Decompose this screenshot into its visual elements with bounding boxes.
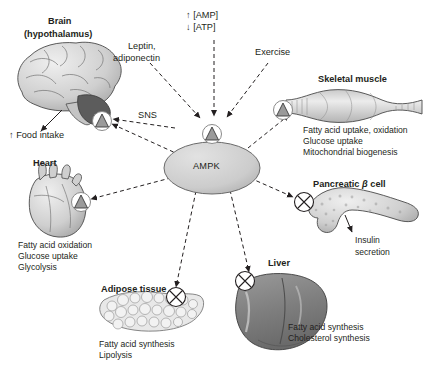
pancreas-title-prefix: Pancreatic (313, 179, 362, 189)
arrow-ampk-to-brain (112, 124, 180, 155)
ampk-label: AMPK (193, 161, 220, 172)
leptin-label-line2: adiponectin (113, 53, 160, 64)
heart-effect-3: Glycolysis (18, 262, 57, 272)
sns-label: SNS (138, 110, 157, 121)
heart-title: Heart (33, 158, 57, 169)
pancreas-illustration (309, 188, 419, 233)
amp-label: ↑ [AMP] (186, 10, 218, 21)
arrow-brain-food-intake (41, 110, 62, 131)
adipose-tissue-illustration (100, 292, 204, 332)
brain-title-line1: Brain (48, 16, 72, 27)
muscle-effect-3: Mitochondrial biogenesis (303, 147, 398, 157)
pancreas-title-suffix: cell (368, 179, 386, 189)
arrow-ampk-to-adipose (176, 191, 196, 287)
food-intake-label: ↑ Food intake (9, 130, 64, 141)
adipose-effect-2: Lipolysis (99, 350, 132, 360)
activation-symbol-ampk (203, 125, 222, 144)
activation-symbol-brain (93, 112, 112, 131)
muscle-effect-1: Fatty acid uptake, oxidation (303, 125, 408, 135)
atp-label: ↓ [ATP] (186, 22, 215, 33)
liver-effect-2: Cholesterol synthesis (288, 333, 370, 343)
arrow-ampk-to-liver (230, 190, 249, 272)
leptin-label-line1: Leptin, (128, 41, 156, 52)
inhibition-symbol-liver (236, 272, 255, 291)
inhibition-symbol-adipose (167, 288, 186, 307)
muscle-effect-2: Glucose uptake (303, 136, 363, 146)
pancreas-title: Pancreatic β cell (313, 179, 386, 190)
activation-symbol-muscle (274, 101, 293, 120)
liver-title: Liver (268, 258, 290, 269)
arrow-exercise-to-ampk (227, 63, 268, 117)
insulin-label-line2: secretion (355, 247, 390, 257)
arrow-ampk-to-pancreas (250, 178, 293, 197)
ampk-signaling-diagram: Brain (hypothalamus) ↑ Food intake Lepti… (0, 0, 431, 375)
skeletal-muscle-title: Skeletal muscle (318, 74, 387, 85)
arrow-leptin-to-ampk (150, 63, 200, 118)
skeletal-muscle-illustration (286, 90, 422, 123)
arrow-ampk-to-heart (91, 176, 178, 199)
activation-symbol-heart (72, 193, 91, 212)
exercise-label: Exercise (255, 47, 290, 58)
brain-title-line2: (hypothalamus) (24, 29, 92, 40)
insulin-label-line1: Insulin (355, 235, 380, 245)
arrow-insulin-secretion (345, 215, 352, 232)
inhibition-symbol-pancreas (295, 193, 314, 212)
adipose-title: Adipose tissue (101, 284, 166, 295)
heart-effect-2: Glucose uptake (18, 251, 78, 261)
adipose-effect-1: Fatty acid synthesis (99, 339, 174, 349)
liver-effect-1: Fatty acid synthesis (288, 322, 363, 332)
heart-effect-1: Fatty acid oxidation (18, 240, 92, 250)
